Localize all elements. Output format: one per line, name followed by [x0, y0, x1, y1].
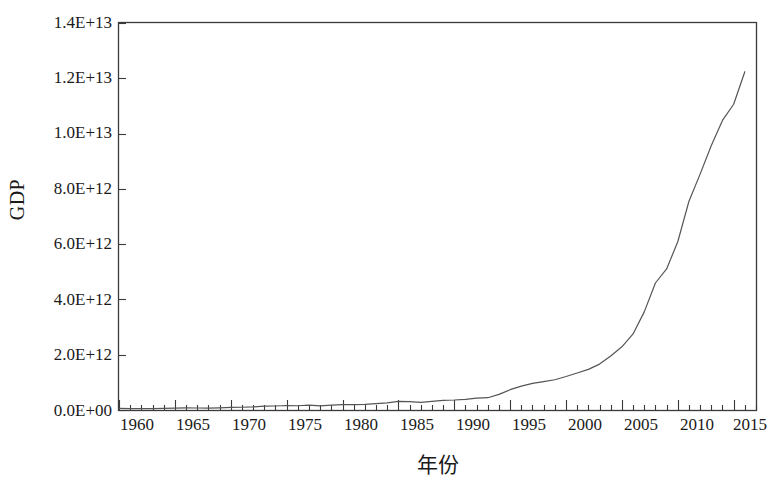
gdp-series-line	[119, 72, 745, 409]
y-tick-label: 6.0E+12	[7, 235, 112, 252]
y-tick-label: 4.0E+12	[7, 291, 112, 308]
plot-area	[0, 0, 777, 483]
y-tick-label: 1.0E+13	[7, 124, 112, 141]
y-axis-tick-labels: 1.4E+13 1.2E+13 1.0E+13 8.0E+12 6.0E+12 …	[0, 0, 112, 483]
x-axis-ticks	[120, 400, 757, 410]
y-tick-label: 1.4E+13	[7, 14, 112, 31]
x-tick-label: 2015	[715, 416, 777, 434]
y-tick-label: 1.2E+13	[7, 69, 112, 86]
y-tick-label: 0.0E+00	[7, 402, 112, 419]
y-tick-label: 2.0E+12	[7, 346, 112, 363]
y-tick-label: 8.0E+12	[7, 180, 112, 197]
x-axis-title: 年份	[118, 448, 757, 478]
y-axis-ticks	[119, 24, 126, 411]
gdp-line-chart: GDP 1.4E+13 1.2E+13 1.0E+13 8.0E+12 6.0E…	[0, 0, 777, 483]
axis-frame	[119, 23, 757, 411]
